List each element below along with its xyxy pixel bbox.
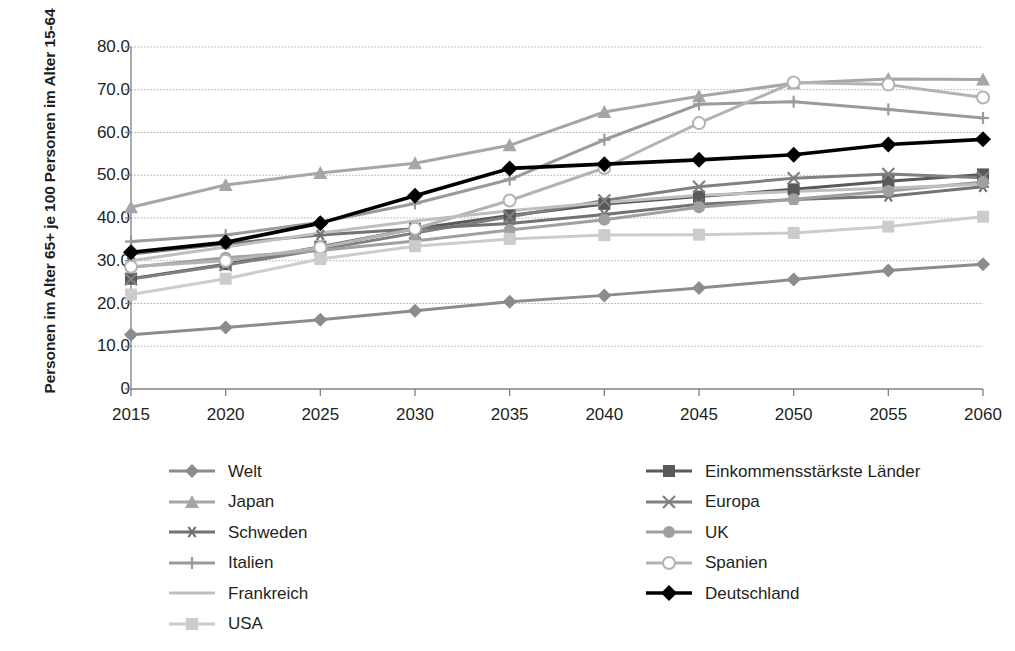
- legend-swatch-icon: [168, 582, 216, 604]
- legend-item-frankreich[interactable]: Frankreich: [168, 578, 308, 609]
- legend-item-welt[interactable]: Welt: [168, 456, 308, 487]
- legend-swatch-icon: [645, 552, 693, 574]
- legend-item-label: Frankreich: [228, 585, 308, 602]
- legend-swatch-icon: [645, 521, 693, 543]
- chart-legend: WeltJapanSchwedenItalienFrankreichUSA Ei…: [168, 456, 988, 646]
- legend-item-label: Einkommensstärkste Länder: [705, 463, 920, 480]
- legend-item-italien[interactable]: Italien: [168, 548, 308, 579]
- legend-swatch-icon: [168, 613, 216, 635]
- legend-column-left: WeltJapanSchwedenItalienFrankreichUSA: [168, 456, 308, 639]
- legend-line-marker-icon: [645, 521, 693, 543]
- legend-item-label: UK: [705, 524, 729, 541]
- legend-swatch-icon: [168, 552, 216, 574]
- legend-column-right: Einkommensstärkste LänderEuropaUKSpanien…: [645, 456, 920, 609]
- legend-line-marker-icon: [168, 491, 216, 513]
- legend-swatch-icon: [645, 460, 693, 482]
- series-line-welt: [131, 264, 983, 335]
- legend-line-marker-icon: [168, 552, 216, 574]
- legend-item-usa[interactable]: USA: [168, 609, 308, 640]
- chart-figure: Personen im Alter 65+ je 100 Personen im…: [0, 0, 1015, 651]
- legend-line-marker-icon: [168, 582, 216, 604]
- legend-item-label: Welt: [228, 463, 262, 480]
- legend-swatch-icon: [168, 491, 216, 513]
- legend-item-label: Deutschland: [705, 585, 800, 602]
- legend-line-marker-icon: [645, 491, 693, 513]
- series-line-deutschland: [131, 139, 983, 252]
- legend-item-uk[interactable]: UK: [645, 517, 920, 548]
- legend-item-schweden[interactable]: Schweden: [168, 517, 308, 548]
- legend-swatch-icon: [168, 521, 216, 543]
- legend-swatch-icon: [168, 460, 216, 482]
- legend-line-marker-icon: [645, 460, 693, 482]
- series-markers-einkommensst-rkste-l-nder: [125, 168, 989, 284]
- legend-swatch-icon: [645, 491, 693, 513]
- legend-item-label: Europa: [705, 493, 760, 510]
- legend-line-marker-icon: [645, 582, 693, 604]
- legend-item-japan[interactable]: Japan: [168, 487, 308, 518]
- legend-swatch-icon: [645, 582, 693, 604]
- legend-item-spanien[interactable]: Spanien: [645, 548, 920, 579]
- legend-item-label: USA: [228, 615, 263, 632]
- legend-line-marker-icon: [168, 521, 216, 543]
- legend-item-europa[interactable]: Europa: [645, 487, 920, 518]
- legend-item-label: Japan: [228, 493, 274, 510]
- legend-item-label: Spanien: [705, 554, 767, 571]
- series-line-frankreich: [131, 184, 983, 261]
- series-line-uk: [131, 182, 983, 267]
- legend-item-einkommensstärkste-länder[interactable]: Einkommensstärkste Länder: [645, 456, 920, 487]
- legend-item-label: Schweden: [228, 524, 307, 541]
- legend-line-marker-icon: [168, 613, 216, 635]
- legend-item-deutschland[interactable]: Deutschland: [645, 578, 920, 609]
- legend-item-label: Italien: [228, 554, 273, 571]
- legend-line-marker-icon: [168, 460, 216, 482]
- legend-line-marker-icon: [645, 552, 693, 574]
- series-line-schweden: [131, 187, 983, 254]
